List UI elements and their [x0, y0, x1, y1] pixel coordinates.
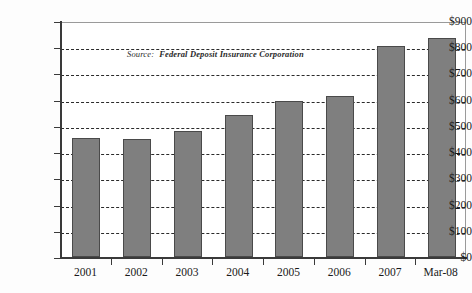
x-axis-tick [415, 258, 416, 265]
y-axis-tick [54, 101, 61, 102]
bar [275, 101, 303, 257]
source-label: Source: [127, 49, 159, 59]
x-axis-label: Mar-08 [415, 266, 466, 278]
y-axis-label: $800 [426, 42, 472, 54]
y-axis-tick [54, 232, 61, 233]
y-axis-label: $900 [426, 16, 472, 28]
y-axis-tick [54, 206, 61, 207]
y-axis-label: $400 [426, 147, 472, 159]
x-axis-label: 2006 [314, 266, 365, 278]
x-axis-label: 2001 [60, 266, 111, 278]
y-axis-label: $500 [426, 121, 472, 133]
y-axis-tick [54, 22, 61, 23]
x-axis-label: 2003 [162, 266, 213, 278]
y-axis-label: $700 [426, 68, 472, 80]
x-axis-label: 2005 [263, 266, 314, 278]
y-axis-label: $100 [426, 226, 472, 238]
y-axis-label: $200 [426, 200, 472, 212]
bar [377, 46, 405, 257]
source-annotation: Source:Federal Deposit Insurance Corpora… [127, 49, 304, 60]
x-axis-tick [111, 258, 112, 265]
plot-area: Source:Federal Deposit Insurance Corpora… [60, 22, 466, 258]
x-axis-tick [212, 258, 213, 265]
y-axis-tick [54, 48, 61, 49]
y-axis-tick [54, 179, 61, 180]
bar [225, 115, 253, 257]
source-text: Federal Deposit Insurance Corporation [159, 49, 304, 59]
chart-screenshot: Source:Federal Deposit Insurance Corpora… [0, 0, 472, 293]
y-axis-tick [54, 258, 61, 259]
x-axis-label: 2004 [212, 266, 263, 278]
bar [326, 96, 354, 257]
x-axis-label: 2002 [111, 266, 162, 278]
y-axis-label: $300 [426, 173, 472, 185]
y-axis-line [60, 21, 62, 259]
bar [72, 138, 100, 257]
x-axis-label: 2007 [365, 266, 416, 278]
y-axis-tick [54, 127, 61, 128]
y-axis-tick [54, 153, 61, 154]
bar [123, 139, 151, 257]
y-axis-tick [54, 74, 61, 75]
x-axis-tick [162, 258, 163, 265]
x-axis-tick [314, 258, 315, 265]
x-axis-tick [263, 258, 264, 265]
y-axis-label: $0 [426, 252, 472, 264]
bar [174, 131, 202, 257]
x-axis-tick [365, 258, 366, 265]
y-axis-label: $600 [426, 95, 472, 107]
